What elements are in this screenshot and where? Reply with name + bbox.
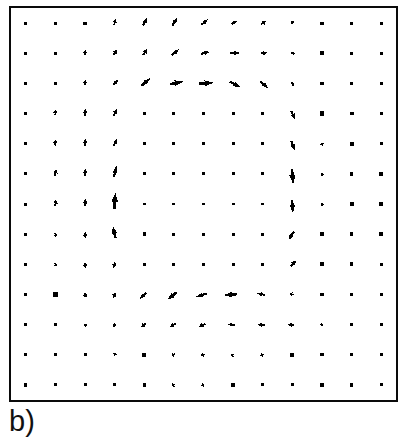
- vector-arrow: [231, 353, 235, 357]
- vector-arrow: [350, 172, 354, 176]
- vector-arrow: [290, 200, 295, 213]
- vector-arrow: [350, 383, 353, 386]
- vector-arrow: [24, 52, 27, 55]
- vector-arrow: [54, 353, 57, 356]
- vector-arrow: [350, 262, 354, 266]
- vector-arrow: [83, 138, 88, 146]
- vector-arrow: [201, 51, 210, 55]
- vector-arrow: [172, 233, 175, 236]
- vector-arrow: [54, 22, 57, 25]
- vector-arrow: [84, 353, 87, 356]
- vector-arrow: [261, 263, 264, 266]
- vector-arrow: [172, 203, 175, 206]
- vector-arrow: [142, 78, 151, 86]
- vector-arrow: [53, 110, 58, 116]
- vector-arrow: [290, 21, 294, 25]
- vector-arrow: [350, 353, 353, 356]
- vector-arrow: [232, 172, 235, 175]
- vector-arrow: [112, 324, 116, 328]
- vector-arrow: [232, 142, 235, 145]
- vector-arrow: [380, 112, 383, 115]
- vector-arrow: [112, 293, 116, 298]
- vector-arrow: [260, 353, 264, 357]
- vector-arrow: [261, 142, 264, 145]
- vector-arrow: [83, 293, 87, 298]
- vector-arrow: [172, 383, 175, 387]
- vector-arrow: [24, 112, 27, 115]
- vector-arrow: [202, 142, 205, 145]
- vector-arrow: [380, 383, 383, 386]
- vector-arrow: [291, 51, 295, 56]
- vector-arrow: [320, 383, 323, 386]
- vector-arrow: [258, 322, 265, 327]
- vector-arrow: [232, 263, 235, 266]
- vector-arrow: [224, 292, 238, 298]
- vector-arrow: [290, 141, 294, 150]
- panel-label: b): [9, 404, 35, 438]
- vector-arrow: [112, 263, 116, 269]
- vector-arrow: [380, 353, 383, 356]
- vector-arrow: [380, 293, 383, 296]
- vector-arrow: [202, 112, 205, 115]
- vector-arrow: [202, 233, 205, 236]
- vector-arrow: [172, 18, 177, 26]
- vector-arrow: [112, 352, 117, 356]
- vector-arrow: [143, 203, 146, 206]
- vector-arrow: [350, 202, 354, 206]
- vector-arrow: [320, 322, 323, 327]
- quiver-vector-field: [11, 8, 396, 400]
- vector-arrow: [196, 293, 206, 297]
- vector-arrow: [54, 82, 58, 86]
- vector-arrow: [379, 172, 383, 176]
- vector-arrow: [379, 202, 383, 206]
- vector-arrow: [379, 232, 383, 236]
- vector-arrow: [320, 82, 324, 86]
- vector-arrow: [231, 21, 237, 25]
- vector-arrow: [83, 263, 87, 268]
- vector-arrow: [380, 142, 383, 145]
- vector-arrow: [24, 233, 27, 236]
- figure-root: b): [0, 0, 407, 441]
- vector-arrow: [380, 52, 383, 55]
- vector-arrow: [113, 19, 117, 25]
- vector-arrow: [143, 18, 148, 26]
- vector-arrow: [201, 353, 205, 357]
- vector-arrow: [261, 383, 264, 386]
- vector-arrow: [261, 233, 264, 236]
- vector-arrow: [83, 109, 88, 116]
- vector-arrow: [290, 353, 294, 357]
- vector-arrow: [380, 82, 383, 85]
- vector-arrow: [199, 323, 206, 327]
- vector-arrow: [320, 353, 323, 356]
- vector-arrow: [112, 166, 117, 177]
- vector-arrow: [380, 323, 383, 326]
- vector-arrow: [320, 173, 324, 177]
- vector-arrow: [291, 383, 294, 386]
- vector-arrow: [143, 112, 146, 115]
- vector-arrow: [320, 262, 324, 266]
- vector-arrow: [232, 233, 235, 236]
- vector-arrow: [83, 199, 88, 207]
- vector-arrow: [53, 233, 57, 237]
- vector-arrow: [172, 142, 175, 145]
- vector-arrow: [350, 232, 354, 236]
- vector-arrow: [54, 383, 57, 386]
- vector-arrow: [288, 232, 294, 241]
- vector-arrow: [350, 112, 354, 116]
- vector-arrow: [380, 22, 383, 25]
- vector-arrow: [257, 292, 265, 297]
- vector-arrow: [261, 112, 264, 115]
- vector-arrow: [261, 203, 264, 206]
- vector-arrow: [140, 292, 147, 299]
- vector-arrow: [350, 52, 353, 55]
- vector-arrow: [54, 52, 57, 55]
- vector-arrow: [83, 80, 88, 85]
- vector-arrow: [380, 263, 383, 266]
- vector-arrow: [350, 323, 353, 326]
- vector-arrow: [143, 232, 146, 235]
- vector-arrow: [172, 172, 175, 175]
- vector-arrow: [201, 19, 208, 25]
- vector-arrow: [83, 22, 86, 25]
- vector-arrow: [83, 324, 87, 327]
- vector-arrow: [83, 168, 88, 176]
